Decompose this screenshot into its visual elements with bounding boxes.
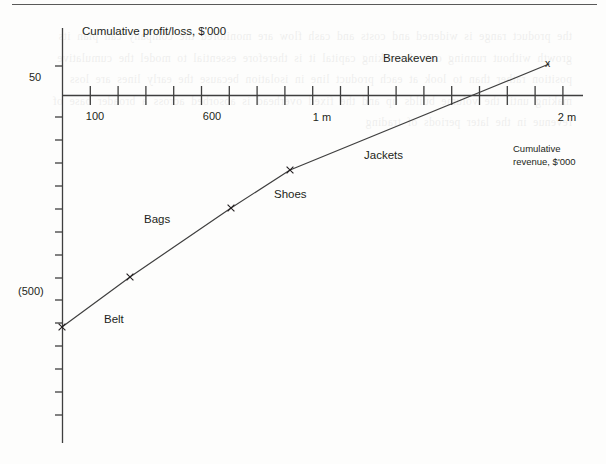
annotation-bags: Bags (144, 213, 170, 226)
y-axis-ticks (55, 66, 62, 415)
x-axis-title-line2: revenue, $'000 (513, 155, 576, 168)
annotation-breakeven: Breakeven (383, 52, 438, 65)
annotation-belt: Belt (104, 313, 124, 326)
annotation-shoes: Shoes (274, 188, 307, 201)
y-axis-title: Cumulative profit/loss, $'000 (82, 25, 226, 38)
annotation-jackets: Jackets (364, 149, 403, 162)
y-tick-label-500: (500) (18, 285, 44, 298)
endpoint-marker-x: x (545, 57, 550, 70)
x-tick-label-1m: 1 m (313, 111, 331, 124)
y-tick-label-50: 50 (29, 71, 41, 84)
x-tick-label-100: 100 (86, 110, 104, 123)
chart-plot-area (0, 0, 606, 464)
x-tick-label-2m: 2 m (558, 111, 576, 124)
x-tick-label-600: 600 (203, 110, 221, 123)
x-axis-title-line1: Cumulative (513, 142, 561, 155)
chart-page: the product range is widened and costs a… (0, 0, 606, 464)
